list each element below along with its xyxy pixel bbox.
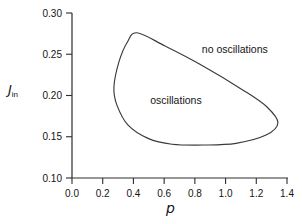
oscillation-region-chart: 0.00.20.40.60.81.01.21.40.100.150.200.25…	[0, 0, 302, 224]
x-tick-label: 0.4	[126, 188, 140, 199]
y-axis-label-subscript: in	[12, 90, 18, 99]
x-tick-label: 0.2	[96, 188, 110, 199]
x-tick-label: 0.8	[188, 188, 202, 199]
y-axis-label: Jin	[8, 82, 18, 99]
x-tick-label: 1.2	[249, 188, 263, 199]
chart-canvas: 0.00.20.40.60.81.01.21.40.100.150.200.25…	[0, 0, 302, 224]
annotation-no-oscillations: no oscillations	[202, 43, 268, 55]
annotation-oscillations: oscillations	[150, 94, 201, 106]
y-axis: 0.100.150.200.250.30	[43, 8, 72, 184]
x-tick-label: 0.0	[65, 188, 79, 199]
x-axis: 0.00.20.40.60.81.01.21.4	[65, 178, 294, 199]
y-tick-label: 0.15	[43, 131, 63, 142]
y-tick-label: 0.10	[43, 173, 63, 184]
x-tick-label: 1.0	[219, 188, 233, 199]
x-tick-label: 1.4	[280, 188, 294, 199]
x-axis-label: p	[166, 200, 175, 216]
y-tick-label: 0.20	[43, 90, 63, 101]
y-tick-label: 0.25	[43, 49, 63, 60]
x-tick-label: 0.6	[157, 188, 171, 199]
y-tick-label: 0.30	[43, 8, 63, 19]
